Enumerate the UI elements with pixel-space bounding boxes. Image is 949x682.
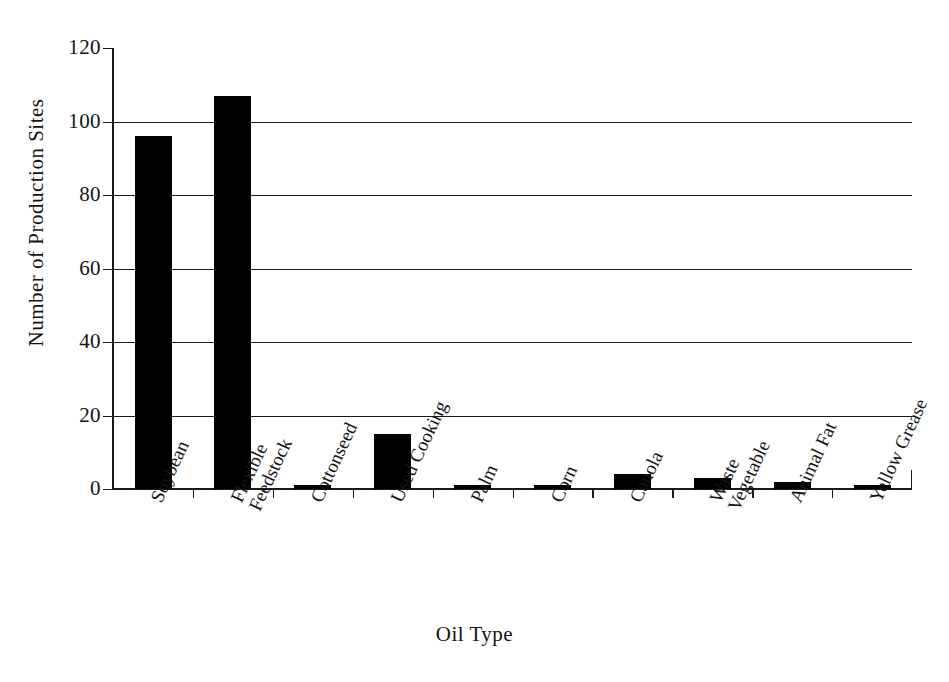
y-tick-100 [103,122,113,123]
y-axis-title: Number of Production Sites [24,23,49,423]
x-tick-4 [433,489,434,498]
y-tick-60 [103,269,113,270]
bar-soybean [135,136,172,489]
x-tick-3 [353,489,354,498]
x-tick-1 [193,489,194,498]
bar-flexible-feedstock [214,96,251,489]
y-tick-0 [103,489,113,490]
y-tick-label-100: 100 [45,111,101,132]
y-tick-80 [103,195,113,196]
y-tick-label-20: 20 [45,405,101,426]
x-tick-7 [672,489,673,498]
x-tick-6 [592,489,593,498]
y-tick-label-40: 40 [45,331,101,352]
x-tick-5 [513,489,514,498]
y-tick-label-120: 120 [45,37,101,58]
y-tick-label-80: 80 [45,184,101,205]
x-axis-title: Oil Type [0,622,949,647]
y-tick-120 [103,48,113,49]
y-tick-20 [103,416,113,417]
y-tick-label-60: 60 [45,258,101,279]
plot-area [113,48,912,489]
x-tick-9 [832,489,833,498]
bar-chart-figure: 020406080100120 Number of Production Sit… [0,0,949,682]
y-tick-label-0: 0 [45,478,101,499]
y-tick-40 [103,342,113,343]
